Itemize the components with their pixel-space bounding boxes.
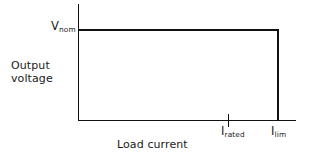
y-axis-title-line-1: Output (11, 59, 53, 72)
curve-constant-voltage-segment (78, 29, 279, 31)
output-voltage-vs-load-current-diagram: Vnom Outputvoltage Irated Ilim Load curr… (0, 0, 309, 157)
y-axis-line (78, 4, 79, 121)
curve-current-limit-dropoff-segment (277, 29, 279, 121)
v-nom-label: Vnom (51, 19, 76, 33)
y-axis-title: Outputvoltage (11, 59, 53, 86)
i-rated-subscript: rated (225, 130, 245, 139)
v-nom-subscript: nom (59, 25, 76, 34)
x-axis-title: Load current (117, 138, 188, 151)
i-lim-subscript: lim (275, 130, 287, 139)
i-lim-label: Ilim (271, 124, 286, 138)
i-lim-symbol: I (271, 124, 275, 138)
v-nom-symbol: V (51, 19, 59, 33)
x-axis-line (78, 120, 296, 121)
i-rated-label: Irated (221, 124, 245, 138)
y-axis-title-line-2: voltage (11, 72, 53, 85)
i-rated-symbol: I (221, 124, 225, 138)
